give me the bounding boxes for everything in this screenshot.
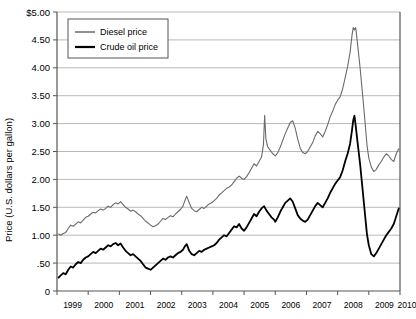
y-tick-label: 0 xyxy=(45,286,50,297)
legend-label-1: Diesel price xyxy=(100,27,147,37)
x-tick-label: 2004 xyxy=(219,300,238,310)
y-tick-label: 2.00 xyxy=(32,174,51,185)
x-tick-label: 2006 xyxy=(281,300,300,310)
y-tick-label: 2.50 xyxy=(32,146,51,157)
y-axis-title-text: Price (U.S. dollars per gallon) xyxy=(3,118,14,242)
legend: Diesel priceCrude oil price xyxy=(68,19,168,58)
x-tick-label: 2000 xyxy=(94,300,113,310)
y-tick-label: .50 xyxy=(37,258,50,269)
y-tick-label: 1.00 xyxy=(32,230,51,241)
series-lines xyxy=(59,28,399,278)
x-tick-label: 2010 xyxy=(398,300,416,310)
chart-root: $5.004.504.003.503.002.502.001.501.00.50… xyxy=(0,0,416,319)
y-tick-label: $5.00 xyxy=(26,7,50,18)
x-tick-label: 2005 xyxy=(250,300,269,310)
x-tick-label: 2007 xyxy=(313,300,332,310)
y-tick-label: 4.50 xyxy=(32,34,51,45)
x-tick-label: 2002 xyxy=(157,300,176,310)
x-tick-label: 2001 xyxy=(125,300,144,310)
y-axis-title: Price (U.S. dollars per gallon) xyxy=(3,118,14,242)
legend-label-2: Crude oil price xyxy=(100,42,158,52)
x-tick-label: 2008 xyxy=(344,300,363,310)
series-line-diesel-price xyxy=(59,28,399,236)
y-tick-label: 3.50 xyxy=(32,90,51,101)
line-chart: $5.004.504.003.503.002.502.001.501.00.50… xyxy=(0,0,416,319)
y-tick-label: 4.00 xyxy=(32,62,51,73)
y-tick-label: 3.00 xyxy=(32,118,51,129)
x-tick-label: 1999 xyxy=(63,300,82,310)
y-axis-ticks: $5.004.504.003.503.002.502.001.501.00.50… xyxy=(26,7,57,297)
y-tick-label: 1.50 xyxy=(32,202,51,213)
x-axis-ticks: 1999200020012002200320042005200620072008… xyxy=(57,291,416,310)
series-line-crude-oil-price xyxy=(59,116,399,278)
x-tick-label: 2003 xyxy=(188,300,207,310)
x-tick-label: 2009 xyxy=(375,300,394,310)
